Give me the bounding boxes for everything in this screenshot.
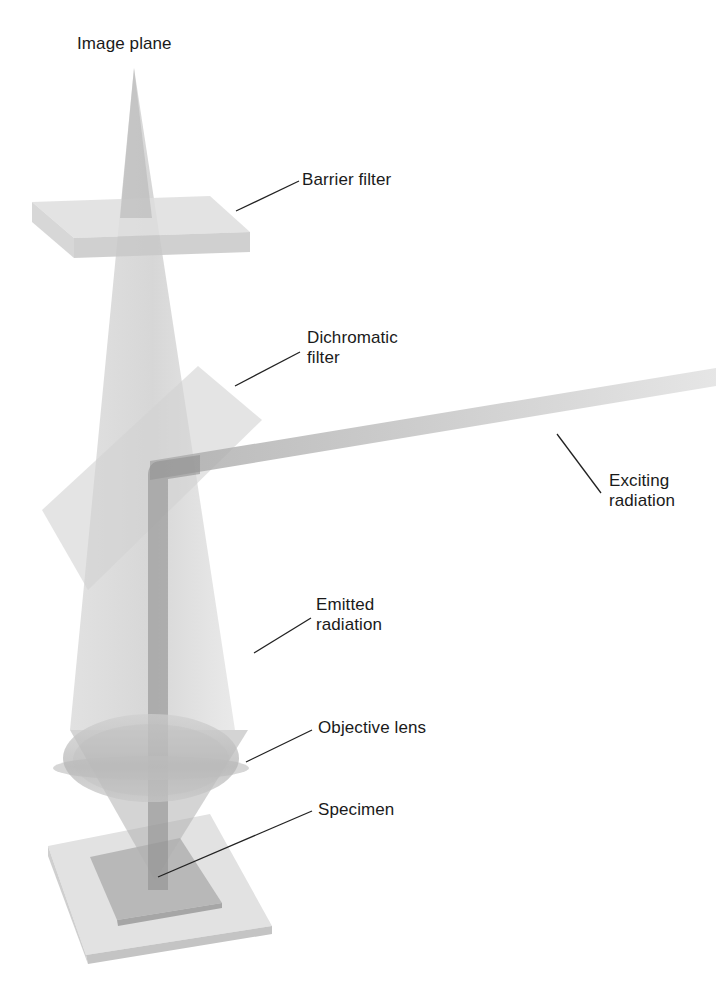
label-specimen: Specimen: [318, 800, 394, 820]
microscope-diagram: Image plane Barrier filter Dichromatic f…: [0, 0, 716, 984]
label-emitted-radiation: Emitted radiation: [316, 595, 382, 635]
leader-exciting-radiation: [557, 434, 601, 493]
leader-barrier-filter: [236, 181, 299, 211]
leader-dichromatic-filter: [235, 352, 300, 386]
label-dichromatic-filter: Dichromatic filter: [307, 328, 398, 368]
leader-emitted-radiation: [254, 618, 311, 653]
leader-objective-lens: [246, 730, 312, 762]
label-image-plane: Image plane: [77, 34, 172, 54]
label-exciting-radiation: Exciting radiation: [609, 471, 675, 511]
image-plane-cone-tip: [120, 68, 152, 218]
label-objective-lens: Objective lens: [318, 718, 426, 738]
label-barrier-filter: Barrier filter: [302, 170, 391, 190]
